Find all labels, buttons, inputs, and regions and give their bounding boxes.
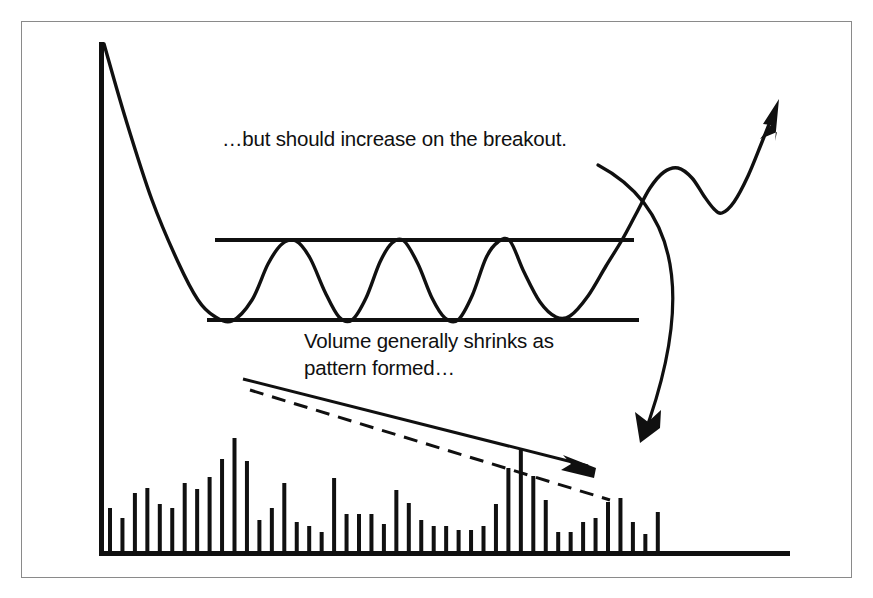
- price-series: [104, 44, 779, 322]
- volume-bar: [656, 512, 660, 556]
- volume-bar: [320, 532, 324, 556]
- price-breakout-arrowhead-icon: [760, 99, 779, 141]
- axes-group: [99, 42, 790, 556]
- volume-bar: [407, 503, 411, 556]
- volume-bar: [594, 518, 598, 556]
- volume-bar: [332, 478, 336, 556]
- volume-bar: [643, 534, 647, 556]
- annotation-breakout-note: …but should increase on the breakout.: [222, 127, 567, 150]
- reference-line-volume-downtrend-dashed: [250, 390, 610, 500]
- volume-bar: [382, 524, 386, 556]
- volume-bar: [432, 526, 436, 556]
- volume-bar: [208, 477, 212, 556]
- volume-bar-spike: [519, 450, 523, 556]
- volume-bar: [183, 483, 187, 556]
- volume-bar: [307, 526, 311, 556]
- volume-bar: [457, 530, 461, 556]
- volume-downtrend-arrowhead-icon: [561, 455, 596, 478]
- volume-bar: [158, 504, 162, 556]
- volume-bar: [108, 508, 112, 556]
- volume-bar: [606, 502, 610, 556]
- volume-bar: [506, 468, 510, 556]
- volume-bar: [120, 518, 124, 556]
- volume-bar: [556, 532, 560, 556]
- volume-bar: [544, 500, 548, 556]
- annotation-volume-note-line2: pattern formed…: [304, 356, 455, 379]
- volume-bar: [282, 483, 286, 556]
- volume-bar: [195, 489, 199, 556]
- breakout-callout-arrow: [598, 165, 673, 443]
- callout-arrowhead-icon: [635, 410, 661, 443]
- annotation-volume-note-line1: Volume generally shrinks as: [304, 329, 554, 352]
- volume-bar: [569, 532, 573, 556]
- volume-bar: [482, 526, 486, 556]
- volume-bar: [469, 530, 473, 556]
- volume-bar: [494, 504, 498, 556]
- volume-bar: [270, 508, 274, 556]
- volume-bar: [394, 490, 398, 556]
- volume-bar: [618, 498, 622, 556]
- volume-bar: [419, 520, 423, 556]
- volume-bar: [257, 520, 261, 556]
- volume-bar: [531, 476, 535, 556]
- volume-bar: [170, 508, 174, 556]
- volume-bar: [295, 522, 299, 556]
- volume-bar: [233, 438, 237, 556]
- volume-bar: [145, 488, 149, 556]
- volume-bar: [631, 522, 635, 556]
- volume-bar: [369, 514, 373, 556]
- reference-line-volume-downtrend-solid: [243, 379, 588, 466]
- volume-bar: [220, 459, 224, 556]
- volume-bar: [444, 526, 448, 556]
- volume-bar: [357, 514, 361, 556]
- volume-bar: [581, 522, 585, 556]
- volume-bar: [345, 514, 349, 556]
- callout-arrow-curve: [598, 165, 673, 438]
- chart-svg: …but should increase on the breakout. Vo…: [0, 0, 873, 598]
- volume-bar: [245, 461, 249, 556]
- volume-bar-series: [108, 438, 660, 556]
- volume-bar: [133, 493, 137, 556]
- diagram-canvas: …but should increase on the breakout. Vo…: [0, 0, 873, 598]
